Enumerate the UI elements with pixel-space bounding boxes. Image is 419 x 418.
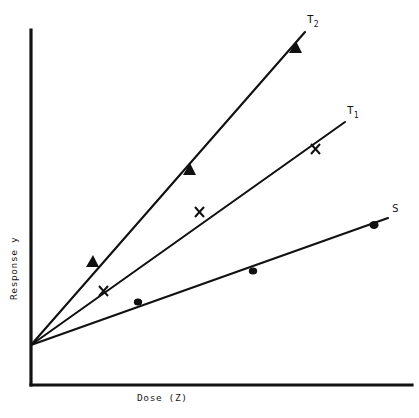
series-label-t1-sub: 1 (354, 111, 359, 120)
data-point-t2-1 (86, 255, 99, 267)
dose-response-plot: T2 T1 S Dose (Z) Response y (0, 0, 419, 418)
data-point-t1-2 (195, 207, 204, 217)
series-line-t2 (31, 32, 305, 345)
series-label-t2: T2 (307, 13, 319, 29)
data-point-s-2 (249, 267, 257, 274)
data-point-s-1 (134, 298, 142, 305)
data-point-t1-3 (311, 144, 320, 154)
series-label-s: S (392, 202, 399, 215)
y-axis-label: Response y (8, 237, 19, 300)
series-line-s (31, 218, 388, 345)
series-label-s-text: S (392, 202, 399, 215)
series-label-t2-sub: 2 (314, 20, 319, 29)
chart-figure: T2 T1 S Dose (Z) Response y (0, 0, 419, 418)
series-line-t1 (31, 122, 345, 345)
series-label-t1: T1 (347, 104, 359, 120)
data-point-s-3 (369, 221, 378, 229)
x-axis-label: Dose (Z) (137, 392, 188, 403)
